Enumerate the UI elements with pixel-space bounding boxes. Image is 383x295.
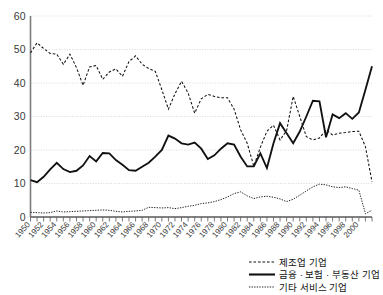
series-line-finance-insurance-realestate (31, 66, 373, 182)
chart-legend: 제조업 기업금융 · 보험 · 부동산 기업기타 서비스 기업 (249, 257, 380, 293)
y-axis-tick-label: 40 (14, 77, 26, 89)
y-axis-tick-label: 50 (14, 43, 26, 55)
line-chart: 0102030405060 19501952195419561958196019… (0, 0, 383, 295)
x-axis-tick-label: 2000 (342, 220, 361, 240)
y-axis-tick-label: 10 (14, 177, 26, 189)
y-axis-tick-label: 30 (14, 110, 26, 122)
chart-container: 0102030405060 19501952195419561958196019… (0, 0, 383, 295)
y-axis-group: 0102030405060 (14, 10, 31, 223)
x-axis-group: 1950195219541956195819601962196419661968… (13, 217, 372, 240)
y-axis-tick-label: 20 (14, 144, 26, 156)
y-axis-tick-labels: 0102030405060 (14, 10, 26, 223)
series-line-other-services (31, 184, 373, 213)
gridlines-group (31, 16, 373, 217)
legend-item-label: 제조업 기업 (279, 257, 327, 268)
series-group (31, 43, 373, 214)
legend-item-label: 금융 · 보험 · 부동산 기업 (279, 269, 380, 280)
y-axis-tick-label: 60 (14, 10, 26, 22)
legend-item-label: 기타 서비스 기업 (279, 282, 347, 293)
x-axis-tickmarks (31, 217, 373, 222)
x-axis-tick-labels: 1950195219541956195819601962196419661968… (13, 220, 360, 240)
